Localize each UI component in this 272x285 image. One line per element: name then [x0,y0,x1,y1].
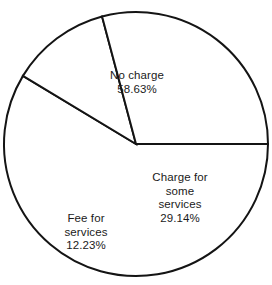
pie-chart: No charge 58.63% Fee for services 12.23%… [0,0,272,285]
pie-chart-svg [0,0,272,285]
